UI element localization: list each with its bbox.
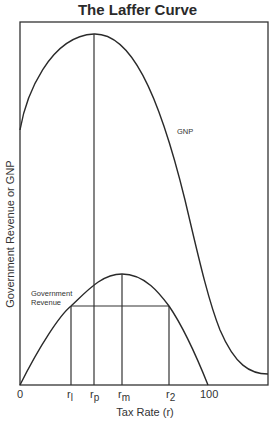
tick-r1: rl	[67, 388, 73, 403]
tick-rp: rp	[90, 388, 100, 403]
x-axis-label: Tax Rate (r)	[20, 406, 270, 418]
gnp-label: GNP	[177, 127, 193, 136]
tick-r2: r2	[166, 388, 176, 403]
gov-revenue-label-2: Revenue	[31, 298, 61, 307]
gnp-curve	[20, 34, 268, 374]
tick-rm: rm	[118, 388, 130, 403]
y-axis-label: Government Revenue or GNP	[4, 114, 16, 354]
tick-0: 0	[17, 388, 23, 400]
gov-revenue-label-1: Government	[31, 289, 73, 298]
tick-100: 100	[200, 388, 218, 400]
laffer-chart: GNP Government Revenue 0 rl rp rm r2 100	[0, 0, 275, 428]
